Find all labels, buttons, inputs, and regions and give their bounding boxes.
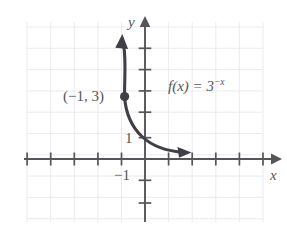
function-equation-base: f(x) = 3: [168, 78, 214, 94]
y-axis: [140, 16, 151, 222]
graph-canvas: [0, 0, 287, 239]
x-tick-label-minus-1: −1: [114, 168, 130, 183]
point-label-minus1-3: (−1, 3): [63, 89, 104, 104]
function-equation-label: f(x) = 3−x: [168, 78, 225, 94]
exponential-function-figure: y x 1 −1 (−1, 3) f(x) = 3−x: [0, 0, 287, 239]
curve-arrow-right: [178, 147, 192, 158]
curve-arrow-up: [115, 33, 130, 49]
function-equation-exponent: −x: [214, 77, 225, 87]
y-axis-label: y: [128, 15, 135, 30]
x-axis-label: x: [270, 168, 277, 183]
y-tick-label-1: 1: [125, 131, 133, 146]
point-marker-minus1-3: [120, 92, 129, 101]
